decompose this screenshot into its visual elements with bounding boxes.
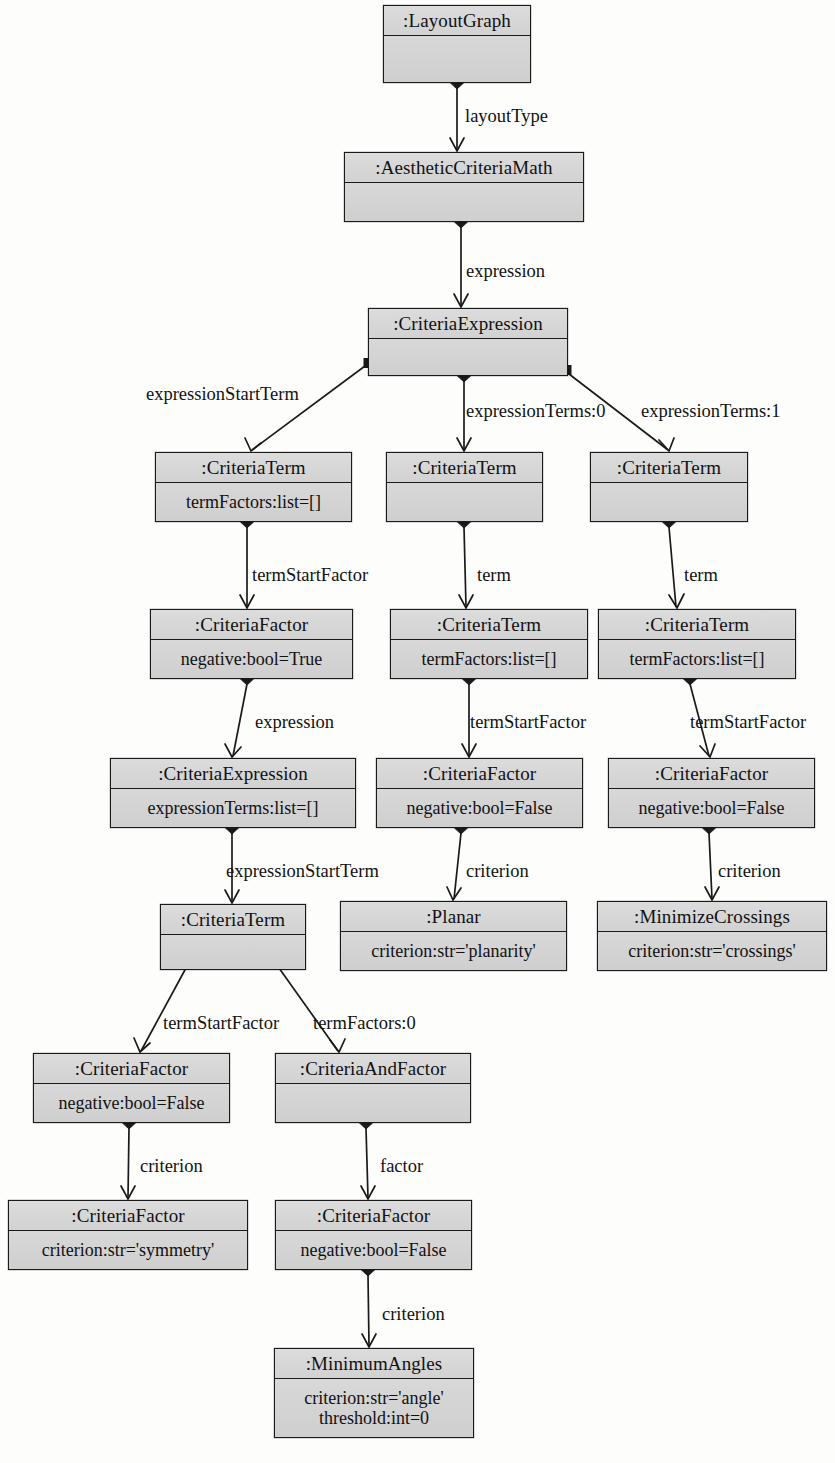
uml-object-title: :MinimizeCrossings bbox=[598, 902, 826, 932]
uml-object-attributes: termFactors:list=[] bbox=[391, 640, 587, 678]
uml-object-criteriafactor-false-right[interactable]: :CriteriaFactornegative:bool=False bbox=[608, 758, 815, 828]
uml-attribute: termFactors:list=[] bbox=[605, 649, 789, 669]
uml-object-criteriaterm-left[interactable]: :CriteriaTermtermFactors:list=[] bbox=[155, 452, 352, 522]
arrowhead-icon bbox=[700, 744, 715, 757]
uml-object-attributes bbox=[591, 483, 747, 521]
arrowhead-icon bbox=[669, 594, 684, 608]
uml-object-title: :CriteriaFactor bbox=[276, 1201, 471, 1231]
arrowhead-icon bbox=[361, 1186, 375, 1199]
uml-object-title: :CriteriaTerm bbox=[591, 453, 747, 483]
uml-edge-e-criterion-planar bbox=[447, 822, 468, 900]
uml-attribute: negative:bool=False bbox=[615, 798, 808, 818]
uml-edge-e-layouttype bbox=[450, 77, 464, 151]
uml-object-title: :CriteriaTerm bbox=[161, 905, 305, 935]
uml-object-criteriaterm-mid2[interactable]: :CriteriaTermtermFactors:list=[] bbox=[390, 609, 588, 679]
uml-object-attributes: negative:bool=False bbox=[276, 1231, 471, 1269]
uml-attribute: negative:bool=False bbox=[282, 1240, 465, 1260]
uml-attribute: negative:bool=False bbox=[40, 1093, 223, 1113]
uml-object-attributes: termFactors:list=[] bbox=[156, 483, 351, 521]
edge-label-e-expression-nested: expression bbox=[255, 713, 334, 732]
uml-object-attributes: negative:bool=False bbox=[609, 789, 814, 827]
uml-attribute: criterion:str='crossings' bbox=[604, 941, 820, 961]
uml-object-criteriafactor-symmetry[interactable]: :CriteriaFactorcriterion:str='symmetry' bbox=[8, 1200, 248, 1270]
edge-label-e-termstartfactor-mid: termStartFactor bbox=[470, 713, 586, 732]
uml-object-criteriaterm-lower[interactable]: :CriteriaTerm bbox=[160, 904, 306, 970]
uml-object-attributes: negative:bool=True bbox=[151, 640, 352, 678]
edge-label-e-termfactors-0: termFactors:0 bbox=[313, 1014, 416, 1033]
uml-edge-e-criterion-angle bbox=[362, 1264, 377, 1347]
uml-object-attributes bbox=[384, 36, 530, 82]
uml-object-criteriaexpression-root[interactable]: :CriteriaExpression bbox=[368, 308, 568, 376]
uml-object-layoutgraph[interactable]: :LayoutGraph bbox=[383, 5, 531, 83]
uml-object-diagram: :LayoutGraph:AestheticCriteriaMath:Crite… bbox=[0, 0, 835, 1463]
uml-object-title: :CriteriaAndFactor bbox=[276, 1054, 470, 1084]
edge-label-e-term-right: term bbox=[684, 566, 718, 585]
uml-object-attributes: expressionTerms:list=[] bbox=[111, 789, 355, 827]
arrowhead-icon bbox=[447, 887, 461, 900]
arrowhead-icon bbox=[245, 438, 261, 451]
uml-attribute: criterion:str='angle' bbox=[281, 1388, 467, 1408]
uml-edge-e-criterion-crossings bbox=[703, 822, 720, 900]
uml-object-title: :CriteriaFactor bbox=[609, 759, 814, 789]
uml-object-criteriaterm-mid[interactable]: :CriteriaTerm bbox=[386, 452, 543, 522]
edge-label-e-factor: factor bbox=[380, 1157, 423, 1176]
arrowhead-icon bbox=[454, 294, 468, 307]
arrowhead-icon bbox=[705, 887, 719, 900]
uml-object-criteriafactor-false-bl[interactable]: :CriteriaFactornegative:bool=False bbox=[33, 1053, 230, 1123]
uml-object-minimumangles[interactable]: :MinimumAnglescriterion:str='angle'thres… bbox=[274, 1348, 474, 1438]
uml-object-planar[interactable]: :Planarcriterion:str='planarity' bbox=[340, 901, 567, 971]
edge-label-e-term-mid: term bbox=[477, 566, 511, 585]
uml-object-title: :CriteriaFactor bbox=[377, 759, 582, 789]
uml-object-attributes: criterion:str='symmetry' bbox=[9, 1231, 247, 1269]
edge-label-e-criterion-crossings: criterion bbox=[718, 862, 781, 881]
uml-object-attributes bbox=[369, 339, 567, 375]
uml-object-criteriafactor-false-mid[interactable]: :CriteriaFactornegative:bool=False bbox=[376, 758, 583, 828]
uml-object-attributes: criterion:str='angle'threshold:int=0 bbox=[275, 1379, 473, 1437]
uml-object-criteriafactor-false-bottom[interactable]: :CriteriaFactornegative:bool=False bbox=[275, 1200, 472, 1270]
uml-object-title: :MinimumAngles bbox=[275, 1349, 473, 1379]
edge-label-e-layouttype: layoutType bbox=[465, 107, 548, 126]
arrowhead-icon bbox=[450, 138, 464, 151]
uml-object-aestheticcriteriamath[interactable]: :AestheticCriteriaMath bbox=[344, 152, 584, 222]
uml-object-minimizecrossings[interactable]: :MinimizeCrossingscriterion:str='crossin… bbox=[597, 901, 827, 971]
uml-object-criteriafactor-true[interactable]: :CriteriaFactornegative:bool=True bbox=[150, 609, 353, 679]
edge-label-e-criterion-symmetry: criterion bbox=[140, 1157, 203, 1176]
uml-attribute: threshold:int=0 bbox=[281, 1408, 467, 1428]
uml-object-attributes bbox=[276, 1084, 470, 1122]
edge-label-e-termstartfactor-bl: termStartFactor bbox=[163, 1014, 279, 1033]
arrowhead-icon bbox=[457, 438, 471, 451]
arrowhead-icon bbox=[362, 1334, 376, 1347]
uml-object-criteriaandfactor[interactable]: :CriteriaAndFactor bbox=[275, 1053, 471, 1123]
arrowhead-icon bbox=[330, 1039, 345, 1052]
uml-attribute: termFactors:list=[] bbox=[397, 649, 581, 669]
edge-label-e-expressionstartterm-1: expressionStartTerm bbox=[146, 385, 299, 404]
uml-object-title: :Planar bbox=[341, 902, 566, 932]
arrowhead-icon bbox=[134, 1038, 150, 1052]
uml-object-attributes: termFactors:list=[] bbox=[599, 640, 795, 678]
uml-object-criteriaterm-right2[interactable]: :CriteriaTermtermFactors:list=[] bbox=[598, 609, 796, 679]
uml-edge-e-expression-nested bbox=[225, 673, 254, 757]
uml-object-title: :CriteriaFactor bbox=[34, 1054, 229, 1084]
uml-object-attributes: criterion:str='crossings' bbox=[598, 932, 826, 970]
uml-object-title: :CriteriaTerm bbox=[391, 610, 587, 640]
uml-attribute: criterion:str='symmetry' bbox=[15, 1240, 241, 1260]
edge-label-e-expression-root: expression bbox=[466, 262, 545, 281]
uml-edge-e-term-right bbox=[663, 516, 685, 608]
uml-attribute: expressionTerms:list=[] bbox=[117, 798, 349, 818]
uml-object-attributes: negative:bool=False bbox=[34, 1084, 229, 1122]
uml-object-attributes: negative:bool=False bbox=[377, 789, 582, 827]
edge-label-e-termstartfactor-right: termStartFactor bbox=[690, 713, 806, 732]
edge-label-e-expressionstartterm-2: expressionStartTerm bbox=[226, 862, 379, 881]
uml-attribute: termFactors:list=[] bbox=[162, 492, 345, 512]
arrowhead-icon bbox=[225, 744, 241, 757]
uml-object-title: :CriteriaFactor bbox=[151, 610, 352, 640]
uml-edge-e-termstartfactor-1 bbox=[240, 516, 254, 608]
edge-label-e-criterion-angle: criterion bbox=[382, 1305, 445, 1324]
uml-object-attributes bbox=[161, 935, 305, 969]
uml-object-criteriaterm-right[interactable]: :CriteriaTerm bbox=[590, 452, 748, 522]
uml-object-attributes bbox=[345, 183, 583, 221]
uml-object-criteriaexpression-nested[interactable]: :CriteriaExpressionexpressionTerms:list=… bbox=[110, 758, 356, 828]
uml-object-title: :CriteriaTerm bbox=[156, 453, 351, 483]
arrowhead-icon bbox=[659, 438, 674, 451]
uml-edge-e-termstartfactor-bl bbox=[134, 958, 192, 1052]
